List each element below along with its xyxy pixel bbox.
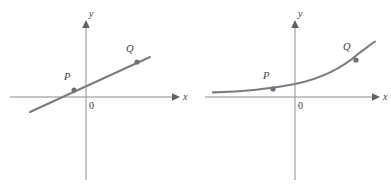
chart-panel-curve: y x 0 P Q <box>195 0 391 193</box>
point-marker-p-right <box>270 86 275 91</box>
chart-panel-line: y x 0 P Q <box>0 0 196 193</box>
point-label-q-right: Q <box>343 41 351 52</box>
point-marker-q-right <box>353 57 358 62</box>
origin-label-left: 0 <box>89 100 94 111</box>
y-axis-label-right: y <box>297 8 303 19</box>
point-label-p-left: P <box>63 71 71 82</box>
origin-label-right: 0 <box>298 100 303 111</box>
point-label-p-right: P <box>262 70 270 81</box>
x-axis-arrowhead-left <box>172 93 180 101</box>
y-axis-arrowhead-right <box>291 20 299 28</box>
figure-root: y x 0 P Q y x 0 P Q <box>0 0 391 193</box>
x-axis-arrowhead-right <box>372 93 380 101</box>
x-axis-label-right: x <box>382 91 388 102</box>
y-axis-arrowhead-left <box>82 20 90 28</box>
point-marker-q-left <box>134 59 139 64</box>
point-label-q-left: Q <box>126 43 134 54</box>
x-axis-label-left: x <box>182 91 188 102</box>
curve-graph-right <box>213 42 375 93</box>
y-axis-label-left: y <box>88 8 94 19</box>
point-marker-p-left <box>71 87 76 92</box>
